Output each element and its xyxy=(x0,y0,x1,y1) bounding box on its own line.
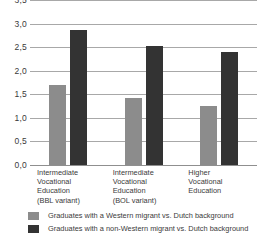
bar-group xyxy=(30,0,106,165)
category-label: IntermediateVocationalEducation(BBL vari… xyxy=(30,168,106,205)
bar-series-1 xyxy=(200,106,217,165)
category-axis-labels: IntermediateVocationalEducation(BBL vari… xyxy=(30,168,257,205)
bars-layer xyxy=(30,0,257,165)
category-label-line: Higher xyxy=(188,168,257,177)
category-label-line: Vocational xyxy=(188,177,257,186)
category-label-line: Vocational xyxy=(37,177,106,186)
axis-baseline xyxy=(30,165,257,166)
bar-group xyxy=(106,0,182,165)
category-label-line: Education xyxy=(188,186,257,195)
category-label: HigherVocationalEducation xyxy=(181,168,257,205)
y-tick-label: 2,5 xyxy=(15,43,27,52)
legend-label: Graduates with a non-Western migrant vs.… xyxy=(48,224,248,233)
category-label-line: Vocational xyxy=(113,177,182,186)
legend-label: Graduates with a Western migrant vs. Dut… xyxy=(48,211,234,220)
bar-chart: 3,53,02,52,01,51,00,50,0 IntermediateVoc… xyxy=(0,0,259,247)
bar-series-2 xyxy=(70,30,87,165)
category-label-line: (BBL variant) xyxy=(37,196,106,205)
y-tick-label: 0,0 xyxy=(15,161,27,170)
chart-legend: Graduates with a Western migrant vs. Dut… xyxy=(28,209,255,235)
bar-group xyxy=(181,0,257,165)
category-label-line: Intermediate xyxy=(113,168,182,177)
bar-series-1 xyxy=(49,85,66,165)
plot-area: 3,53,02,52,01,51,00,50,0 xyxy=(0,0,259,172)
bar-series-2 xyxy=(221,52,238,165)
legend-swatch-icon xyxy=(28,212,39,220)
category-label: IntermediateVocationalEducation(BOL vari… xyxy=(106,168,182,205)
category-label-line: Education xyxy=(113,186,182,195)
legend-item: Graduates with a non-Western migrant vs.… xyxy=(28,222,255,235)
y-tick-label: 1,0 xyxy=(15,113,27,122)
y-tick-label: 3,5 xyxy=(15,0,27,5)
bar-series-2 xyxy=(146,46,163,165)
category-label-line: (BOL variant) xyxy=(113,196,182,205)
legend-item: Graduates with a Western migrant vs. Dut… xyxy=(28,209,255,222)
y-tick-label: 1,5 xyxy=(15,90,27,99)
legend-swatch-icon xyxy=(28,225,39,233)
y-axis: 3,53,02,52,01,51,00,50,0 xyxy=(0,0,30,172)
category-label-line: Education xyxy=(37,186,106,195)
y-tick-label: 2,0 xyxy=(15,66,27,75)
y-tick-label: 0,5 xyxy=(15,137,27,146)
category-label-line: Intermediate xyxy=(37,168,106,177)
y-tick-label: 3,0 xyxy=(15,19,27,28)
bar-series-1 xyxy=(125,98,142,165)
